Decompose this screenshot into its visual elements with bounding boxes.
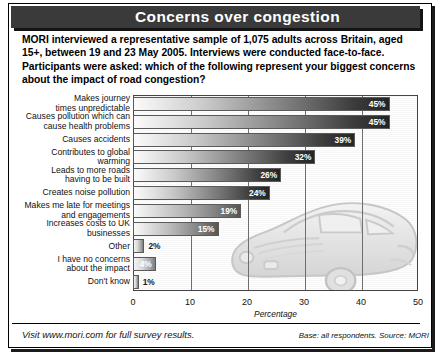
bar-chart: 45%45%39%32%26%24%19%15%2%4%1% Makes jou… [12, 88, 422, 318]
bar-value-label: 15% [198, 222, 215, 236]
bar-value-label: 2% [148, 239, 160, 253]
x-axis-title: Percentage [133, 309, 418, 319]
bar-value-label: 19% [221, 204, 238, 218]
intro-paragraph: MORI interviewed a representative sample… [22, 33, 420, 86]
x-tick-label: 0 [113, 297, 153, 307]
frame-shadow-bottom [11, 349, 435, 352]
category-label: Don't know [0, 277, 130, 287]
bar-row: 45% [133, 115, 418, 129]
page-title: Concerns over congestion [11, 6, 420, 28]
bar-value-label: 45% [369, 97, 386, 111]
x-tick-label: 50 [398, 297, 438, 307]
bar [133, 133, 355, 147]
bar-value-label: 39% [335, 133, 352, 147]
bar-row: 1% [133, 275, 418, 289]
category-label: Causes accidents [0, 135, 130, 145]
x-tick-label: 10 [170, 297, 210, 307]
bar-value-label: 26% [260, 168, 277, 182]
footer-website-note: Visit www.mori.com for full survey resul… [22, 329, 194, 340]
category-label: Leads to more roadshaving to be built [0, 166, 130, 185]
bar-row: 32% [133, 150, 418, 164]
bar-value-label: 32% [295, 150, 312, 164]
footer-divider [12, 323, 420, 324]
bar [133, 239, 144, 253]
bar [133, 168, 281, 182]
bar-value-label: 45% [369, 115, 386, 129]
title-banner-shadow-bottom [14, 28, 423, 31]
bar-row: 4% [133, 257, 418, 271]
category-label: I have no concernsabout the impact [0, 255, 130, 274]
category-label: Other [0, 242, 130, 252]
bar-row: 19% [133, 204, 418, 218]
bar-row: 15% [133, 222, 418, 236]
bar [133, 150, 315, 164]
poster-page: Concerns over congestion MORI interviewe… [0, 0, 443, 362]
bar [133, 97, 390, 111]
bar [133, 275, 139, 289]
category-label: Creates noise pollution [0, 188, 130, 198]
x-tick-label: 30 [284, 297, 324, 307]
title-banner: Concerns over congestion [11, 6, 420, 28]
bar-row: 39% [133, 133, 418, 147]
bar-row: 2% [133, 239, 418, 253]
bar-row: 26% [133, 168, 418, 182]
bar-value-label: 24% [249, 186, 266, 200]
x-tick-label: 40 [341, 297, 381, 307]
x-tick-label: 20 [227, 297, 267, 307]
bar-row: 45% [133, 97, 418, 111]
bar-row: 24% [133, 186, 418, 200]
bar-value-label: 4% [140, 257, 152, 271]
category-label: Increases costs to UKbusinesses [0, 219, 130, 238]
footer-source-note: Base: all respondents. Source: MORI [299, 331, 429, 340]
bar [133, 115, 390, 129]
bar-value-label: 1% [143, 275, 155, 289]
category-label: Causes pollution which cancause health p… [0, 112, 130, 131]
